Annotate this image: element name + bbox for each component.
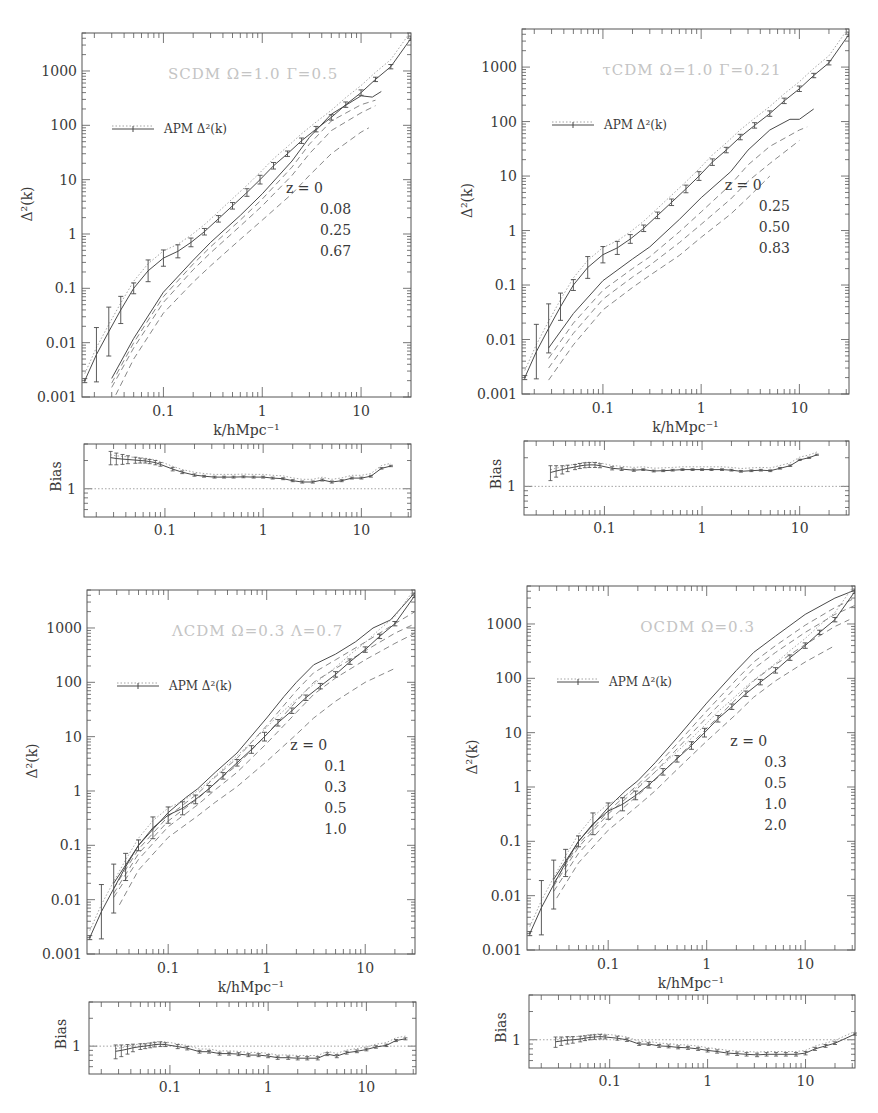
y-tick-label: 0.001	[37, 389, 77, 405]
bias-frame	[524, 441, 849, 515]
y-tick-label: 0.1	[500, 833, 522, 849]
redshift-label: z = 0	[730, 733, 767, 749]
bias-x-tick-label: 1	[264, 1079, 273, 1095]
bias-envelope	[111, 455, 391, 480]
apm-error-bars	[522, 32, 851, 379]
bias-error-bars	[114, 1038, 408, 1060]
plot-frame	[87, 590, 415, 954]
bias-ticks	[89, 1002, 416, 1074]
x-ticks	[539, 586, 852, 950]
panel-title: SCDM Ω=1.0 Γ=0.5	[168, 65, 338, 83]
bias-panel-lcdm: 1Bias0.1110	[53, 1002, 416, 1095]
panel-title: ΛCDM Ω=0.3 Λ=0.7	[171, 622, 343, 640]
redshift-label: z = 0	[286, 180, 323, 196]
x-tick-label: 10	[356, 960, 374, 976]
x-tick-label: 10	[790, 400, 808, 416]
y-tick-label: 1000	[41, 63, 77, 79]
apm-error-bars	[527, 589, 857, 936]
redshift-legend: z = 00.080.250.67	[286, 180, 351, 259]
model-curve-z2.0	[557, 646, 835, 899]
redshift-value: 0.25	[759, 198, 790, 214]
figure: 0.11100.0010.010.11101001000k/hMpc⁻¹Δ²(k…	[0, 0, 878, 1113]
y-tick-label: 0.001	[477, 386, 517, 402]
x-tick-label: 0.1	[592, 400, 614, 416]
bias-panel-tcdm: 1Bias0.1110	[488, 441, 849, 536]
y-tick-label: 1000	[481, 59, 517, 75]
bias-envelope	[551, 452, 817, 470]
bias-x-tick-label: 1	[259, 522, 268, 538]
model-curve-z1.0	[119, 668, 395, 905]
y-tick-label: 0.001	[42, 946, 82, 962]
y-tick-label: 10	[64, 729, 82, 745]
panel-ocdm: 0.11100.0010.010.11101001000k/hMpc⁻¹Δ²(k…	[464, 584, 858, 991]
redshift-value: 0.83	[759, 240, 790, 256]
y-tick-label: 0.01	[491, 888, 522, 904]
bias-curve	[551, 455, 817, 473]
redshift-value: 1.0	[764, 796, 786, 812]
y-tick-label: 100	[50, 117, 77, 133]
x-ticks	[94, 33, 408, 397]
panel-lcdm: 0.11100.0010.010.11101001000k/hMpc⁻¹Δ²(k…	[24, 588, 418, 995]
redshift-value: 0.50	[759, 219, 790, 235]
x-axis-label: k/hMpc⁻¹	[652, 419, 718, 435]
figure-canvas: 0.11100.0010.010.11101001000k/hMpc⁻¹Δ²(k…	[0, 0, 878, 1113]
model-curve-z0.08	[112, 100, 376, 383]
y-axis-label: Δ²(k)	[24, 743, 40, 778]
x-axis-label: k/hMpc⁻¹	[658, 975, 724, 991]
panel-scdm: 0.11100.0010.010.11101001000k/hMpc⁻¹Δ²(k…	[19, 31, 414, 438]
bias-y-tick-label: 1	[67, 481, 76, 497]
x-tick-label: 1	[697, 400, 706, 416]
bias-panel-scdm: 1Bias0.1110	[48, 444, 411, 538]
y-tick-label: 1	[73, 783, 82, 799]
redshift-legend: z = 00.250.500.83	[725, 177, 790, 256]
y-ticks	[527, 586, 855, 950]
redshift-value: 0.1	[324, 758, 346, 774]
plot-area	[527, 584, 857, 935]
y-tick-label: 0.1	[60, 837, 82, 853]
redshift-value: 0.08	[320, 201, 351, 217]
x-tick-label: 1	[258, 403, 267, 419]
legend-apm: APM Δ²(k)	[557, 675, 672, 689]
x-ticks	[534, 29, 846, 394]
y-tick-label: 100	[495, 670, 522, 686]
x-tick-label: 0.1	[157, 960, 179, 976]
x-ticks	[99, 590, 412, 954]
apm-error-bars	[82, 36, 413, 383]
legend-label: APM Δ²(k)	[168, 679, 232, 693]
redshift-value: 0.25	[320, 222, 351, 238]
panel-title: OCDM Ω=0.3	[640, 618, 755, 636]
plot-area	[87, 588, 417, 939]
y-ticks	[522, 29, 849, 394]
bias-ticks	[84, 444, 411, 517]
bias-y-tick-label: 1	[507, 478, 516, 494]
bias-frame	[529, 995, 855, 1068]
y-tick-label: 0.1	[495, 277, 517, 293]
bias-x-tick-label: 0.1	[599, 1073, 621, 1089]
x-tick-label: 1	[702, 956, 711, 972]
redshift-label: z = 0	[725, 177, 762, 193]
bias-ticks	[529, 995, 855, 1068]
model-curve-z0.67	[116, 128, 369, 395]
redshift-value: 0.67	[320, 243, 351, 259]
bias-y-axis-label: Bias	[53, 1019, 69, 1049]
bias-x-tick-label: 0.1	[154, 522, 176, 538]
plot-area	[522, 27, 851, 380]
x-axis-label: k/hMpc⁻¹	[218, 979, 284, 995]
x-tick-label: 1	[262, 960, 271, 976]
y-tick-label: 10	[59, 172, 77, 188]
y-tick-label: 0.001	[482, 942, 522, 958]
x-tick-label: 0.1	[597, 956, 619, 972]
y-tick-label: 0.01	[486, 332, 517, 348]
bias-x-tick-label: 1	[703, 1073, 712, 1089]
x-axis-label: k/hMpc⁻¹	[213, 422, 279, 438]
bias-error-bars	[548, 454, 818, 480]
bias-ticks	[524, 441, 849, 515]
legend-label: APM Δ²(k)	[603, 118, 667, 132]
bias-y-axis-label: Bias	[488, 459, 504, 489]
apm-error-bars	[87, 593, 417, 940]
bias-x-tick-label: 10	[352, 522, 370, 538]
legend-label: APM Δ²(k)	[163, 122, 227, 136]
redshift-value: 0.3	[764, 754, 786, 770]
bias-x-tick-label: 10	[357, 1079, 375, 1095]
y-tick-label: 1	[508, 223, 517, 239]
